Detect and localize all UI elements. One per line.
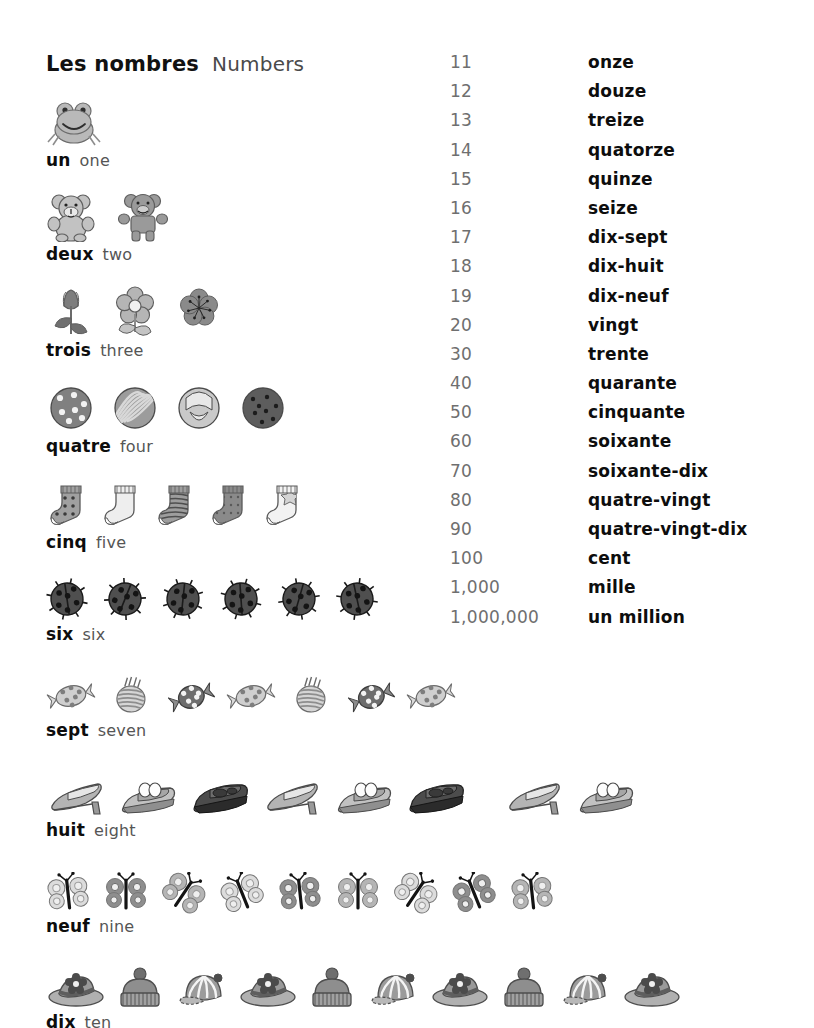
ladybug-icon (278, 576, 322, 622)
shoe-icon (190, 774, 252, 818)
numeral-value: 11 (450, 52, 588, 72)
shoe-icon (334, 774, 396, 818)
english-word: three (100, 341, 143, 360)
butterfly-icon (336, 872, 382, 914)
hat-icon (366, 966, 426, 1010)
numeral-value: 16 (450, 198, 588, 218)
numeral-value: 19 (450, 286, 588, 306)
french-word: trois (46, 340, 91, 360)
french-word: cinq (46, 532, 87, 552)
candy-icon (346, 674, 396, 718)
numeral-value: 15 (450, 169, 588, 189)
english-word: one (80, 151, 110, 170)
hat-icon (174, 966, 234, 1010)
number-row: 14quatorze (450, 140, 747, 169)
number-row: 19dix-neuf (450, 286, 747, 315)
icon-row-shoe (46, 752, 646, 818)
french-number-word: seize (588, 198, 638, 218)
numeral-value: 60 (450, 431, 588, 451)
numbers-table: 11onze12douze13treize14quatorze15quinze1… (450, 52, 747, 636)
number-row: 17dix-sept (450, 227, 747, 256)
numeral-value: 17 (450, 227, 588, 247)
french-number-word: onze (588, 52, 634, 72)
french-word: neuf (46, 916, 90, 936)
french-number-word: cinquante (588, 402, 685, 422)
teddy-bear-icon (118, 190, 168, 242)
number-row: 40quarante (450, 373, 747, 402)
candy-icon (166, 674, 216, 718)
ladybug-icon (46, 576, 90, 622)
frog-icon (46, 94, 102, 148)
shoe-icon (262, 774, 324, 818)
french-number-word: mille (588, 577, 636, 597)
butterfly-icon (510, 872, 556, 914)
sock-icon (262, 480, 306, 530)
page-header: Les nombres Numbers (46, 52, 304, 76)
number-label-neuf: neufnine (46, 914, 646, 948)
french-number-word: quatre-vingt-dix (588, 519, 747, 539)
french-word: quatre (46, 436, 111, 456)
flower-icon (110, 284, 160, 338)
english-word: five (96, 533, 126, 552)
french-word: un (46, 150, 71, 170)
sock-icon (208, 480, 252, 530)
french-number-word: vingt (588, 315, 638, 335)
ladybug-icon (220, 576, 264, 622)
ladybug-icon (162, 576, 206, 622)
french-word: deux (46, 244, 94, 264)
numeral-value: 70 (450, 461, 588, 481)
ladybug-icon (336, 576, 380, 622)
cookie-icon (238, 384, 290, 434)
english-word: nine (99, 917, 134, 936)
hat-icon (302, 966, 362, 1010)
number-label-sept: septseven (46, 718, 646, 752)
sock-icon (100, 480, 144, 530)
numeral-value: 1,000 (450, 577, 588, 597)
candy-icon (106, 674, 156, 718)
numeral-value: 100 (450, 548, 588, 568)
icon-row-hat (46, 948, 646, 1010)
shoe-icon (46, 774, 108, 818)
page-title-french: Les nombres (46, 52, 199, 76)
candy-icon (406, 674, 456, 718)
shoe-icon (406, 774, 468, 818)
number-row: 18dix-huit (450, 256, 747, 285)
french-number-word: dix-neuf (588, 286, 669, 306)
flower-icon (174, 284, 224, 338)
icon-row-candy (46, 656, 646, 718)
french-number-word: trente (588, 344, 649, 364)
number-row: 12douze (450, 81, 747, 110)
numeral-value: 20 (450, 315, 588, 335)
english-word: six (83, 625, 106, 644)
numeral-value: 30 (450, 344, 588, 364)
numeral-value: 80 (450, 490, 588, 510)
french-word: huit (46, 820, 85, 840)
shoe-icon (118, 774, 180, 818)
hat-icon (110, 966, 170, 1010)
english-word: four (120, 437, 153, 456)
cookie-icon (46, 384, 98, 434)
french-number-word: quinze (588, 169, 653, 189)
french-word: six (46, 624, 74, 644)
numeral-value: 12 (450, 81, 588, 101)
sock-icon (46, 480, 90, 530)
number-row: 50cinquante (450, 402, 747, 431)
french-number-word: un million (588, 607, 685, 627)
teddy-bear-icon (46, 190, 96, 242)
french-word: dix (46, 1012, 76, 1028)
number-row: 15quinze (450, 169, 747, 198)
french-number-word: douze (588, 81, 646, 101)
number-row: 30trente (450, 344, 747, 373)
french-number-word: dix-sept (588, 227, 668, 247)
french-number-word: cent (588, 548, 631, 568)
butterfly-icon (162, 872, 208, 914)
hat-icon (430, 966, 490, 1010)
number-row: 20vingt (450, 315, 747, 344)
shoe-icon (504, 774, 566, 818)
numeral-value: 40 (450, 373, 588, 393)
french-number-word: quarante (588, 373, 677, 393)
count-group-sept: septseven (46, 656, 646, 752)
number-row: 11onze (450, 52, 747, 81)
page-title-english: Numbers (212, 52, 304, 76)
number-row: 70soixante-dix (450, 461, 747, 490)
